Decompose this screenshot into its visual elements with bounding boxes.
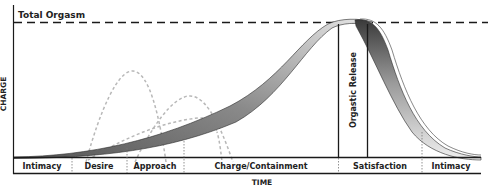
- y-axis-label: CHARGE: [0, 77, 8, 112]
- main-curve-fall-ribbon: [355, 20, 481, 160]
- total-orgasm-label: Total Orgasm: [18, 10, 85, 20]
- phase-label-satisfaction: Satisfaction: [353, 162, 407, 171]
- phase-label-desire: Desire: [85, 162, 115, 171]
- phase-label-intimacy-end: Intimacy: [432, 162, 472, 171]
- phase-label-intimacy-start: Intimacy: [23, 162, 63, 171]
- charge-time-diagram: Total Orgasm CHARGE Orgastic Release Int…: [0, 0, 491, 188]
- x-axis-label: TIME: [252, 178, 273, 187]
- phase-label-charge-containment: Charge/Containment: [215, 162, 308, 171]
- main-curve-rise-highlight: [80, 30, 332, 159]
- main-curve-rise-ribbon: [14, 19, 372, 158]
- phase-label-approach: Approach: [134, 162, 177, 171]
- orgastic-release-label: Orgastic Release: [349, 51, 358, 128]
